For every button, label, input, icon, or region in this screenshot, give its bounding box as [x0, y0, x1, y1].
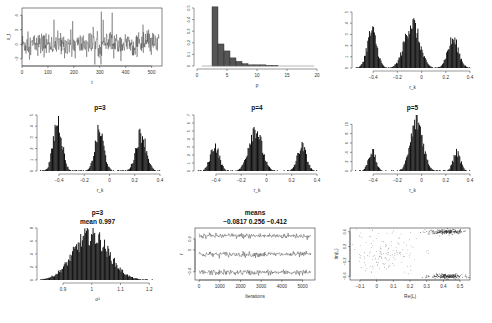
y-tick-label: 2 [344, 160, 349, 163]
y-tick-label: 0.2 [186, 39, 191, 45]
y-tick-label: 4 [14, 13, 19, 16]
y-tick-label: 0 [187, 248, 192, 251]
y-axis-label: x_t [6, 33, 11, 40]
x-tick-label: 0 [420, 75, 423, 80]
x-tick-label: 1.1 [117, 287, 124, 292]
chart-hist-p: 0510152000.10.20.30.40.5p [186, 4, 320, 88]
x-tick-label: 20 [314, 73, 320, 78]
x-tick-label: 0.9 [60, 287, 67, 292]
chart-hist-p4: p=4−0.4−0.200.20.401234567r_k [186, 104, 321, 193]
data-layer [350, 228, 470, 279]
x-tick-label: 400 [122, 70, 130, 75]
x-tick-label: 0 [265, 178, 268, 183]
hist-bar [230, 58, 236, 66]
chart-scatter-roots: −0.100.10.20.30.40.5−0.6−0.20.20.6Re(L)I… [334, 228, 470, 299]
y-tick-label: 4 [186, 137, 191, 140]
hist-bar [224, 51, 230, 66]
x-tick-label: −0.4 [369, 75, 379, 80]
trace-series-r3 [199, 269, 311, 275]
x-tick-label: −0.1 [355, 284, 365, 289]
x-axis-label: σ² [95, 297, 100, 302]
y-tick-label: 6 [344, 141, 349, 144]
x-tick-label: 2000 [235, 284, 246, 289]
y-tick-label: 0 [186, 64, 191, 67]
data-layer [40, 228, 153, 280]
x-tick-label: −0.4 [211, 178, 221, 183]
y-axis-label: r [179, 253, 184, 255]
x-tick-label: 0 [196, 73, 199, 78]
y-tick-label: 4 [29, 252, 34, 255]
y-tick-label: 8 [344, 132, 349, 135]
chart-hist-p5: p=5−0.4−0.200.20.40246810r_k [344, 104, 474, 193]
y-tick-label: 2 [29, 265, 34, 268]
y-tick-label: 2 [14, 28, 19, 31]
y-axis-label: Im(L) [334, 248, 339, 260]
trace-series-r1 [199, 233, 311, 240]
x-tick-label: 0.2 [443, 178, 450, 183]
data-layer [40, 116, 160, 171]
chart-hist-sigma: p=3mean 0.9970.911.11.202468σ² [29, 209, 153, 302]
y-tick-label: 6 [29, 239, 34, 242]
y-tick-label: 4 [344, 150, 349, 153]
x-tick-label: −0.2 [237, 178, 247, 183]
y-tick-label: 0 [344, 169, 349, 172]
y-tick-label: 10 [344, 121, 349, 126]
x-tick-label: −0.4 [54, 178, 64, 183]
y-tick-label: 4 [344, 21, 349, 24]
chart-title: p=3 [92, 209, 104, 217]
x-tick-label: 0.4 [314, 178, 321, 183]
y-tick-label: −2 [14, 56, 19, 61]
x-tick-label: 0.4 [157, 178, 164, 183]
x-tick-label: 0.2 [443, 75, 450, 80]
y-tick-label: 1 [29, 158, 34, 161]
y-tick-label: 0 [344, 66, 349, 69]
y-tick-label: −0.2 [342, 257, 347, 266]
x-tick-label: 3000 [256, 284, 267, 289]
y-tick-label: 0.3 [186, 28, 191, 34]
x-tick-label: 300 [96, 70, 104, 75]
x-tick-label: 1.2 [146, 287, 153, 292]
chart-title: p=5 [407, 104, 419, 112]
chart-title: p=4 [251, 104, 263, 112]
chart-hist-p3: p=3−0.4−0.200.20.4012345r_k [29, 104, 164, 193]
x-tick-label: 1 [90, 287, 93, 292]
data-layer [199, 233, 311, 276]
chart-hist-all: −0.4−0.200.20.4012345r_k [344, 10, 474, 90]
x-tick-label: 0 [198, 284, 201, 289]
chart-title: p=3 [94, 104, 106, 112]
x-tick-label: 5000 [297, 284, 308, 289]
y-tick-label: 2 [186, 153, 191, 156]
y-tick-label: 1 [186, 161, 191, 164]
x-tick-label: 0 [21, 70, 24, 75]
data-layer [202, 7, 314, 66]
x-tick-label: 1000 [215, 284, 226, 289]
hist-bar [236, 61, 242, 66]
y-tick-label: 5 [29, 113, 34, 116]
x-tick-label: 0.4 [467, 178, 474, 183]
chart-grid: 0100200300400500−2024tx_t0510152000.10.2… [0, 0, 492, 323]
y-tick-label: 0.1 [186, 51, 191, 57]
x-tick-label: 0.5 [457, 284, 464, 289]
y-tick-label: 4 [29, 124, 34, 127]
plot-frame [350, 228, 470, 280]
x-tick-label: 15 [284, 73, 290, 78]
y-tick-label: 5 [186, 129, 191, 132]
axes: 0510152000.10.20.30.40.5p [186, 4, 320, 88]
y-tick-label: 1 [344, 55, 349, 58]
data-layer [355, 115, 470, 171]
y-tick-label: 7 [186, 113, 191, 116]
y-tick-label: 0 [186, 169, 191, 172]
chart-trace-L: 0100200300400500−2024tx_t [6, 8, 162, 85]
x-tick-label: 500 [148, 70, 156, 75]
y-tick-label: 2 [344, 44, 349, 47]
x-tick-label: 10 [254, 73, 260, 78]
y-tick-label: 2 [29, 147, 34, 150]
x-axis-label: Iterations [245, 294, 265, 299]
y-tick-label: 0 [14, 42, 19, 45]
x-tick-label: 200 [70, 70, 78, 75]
x-tick-label: 0 [420, 178, 423, 183]
x-tick-label: 5 [226, 73, 229, 78]
x-tick-label: 0.3 [423, 284, 430, 289]
y-tick-label: 0 [29, 278, 34, 281]
x-tick-label: 0.1 [390, 284, 397, 289]
